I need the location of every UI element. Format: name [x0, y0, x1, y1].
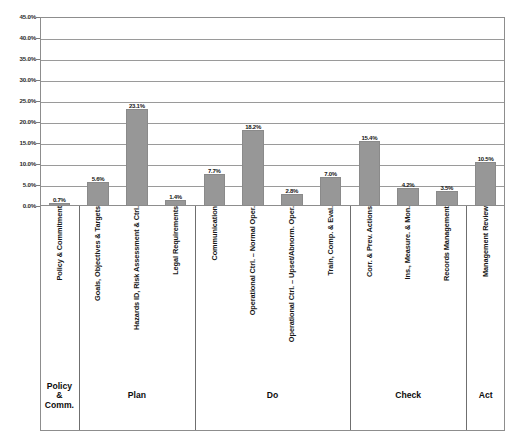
bar: 7.0%: [320, 177, 342, 206]
y-axis-tick-label: 0.0%: [2, 202, 36, 209]
category-label-slot: Ins., Measure. & Mon.: [389, 206, 428, 362]
bar-slot: 23.1%: [126, 17, 148, 206]
category-label-slot: Legal Requirements: [156, 206, 195, 362]
axis-rule-bottom: [40, 430, 505, 431]
category-label: Communication: [211, 206, 218, 264]
y-axis-tick-label: 45.0%: [2, 13, 36, 20]
y-axis-tick-label: 25.0%: [2, 97, 36, 104]
category-axis: Policy & CommitmentGoals, Objectives & T…: [40, 206, 505, 362]
bar-chart: 45.0%40.0%35.0%30.0%25.0%20.0%15.0%10.0%…: [0, 0, 517, 440]
bar-slot: 10.5%: [475, 17, 497, 206]
bar-slot: 7.7%: [204, 17, 226, 206]
y-axis-tick-label: 15.0%: [2, 139, 36, 146]
axis-rule-left: [40, 206, 41, 430]
category-label: Goals, Objectives & Targets: [94, 206, 101, 304]
bar-slot: 0.7%: [49, 17, 71, 206]
bar: 10.5%: [475, 162, 497, 206]
y-axis-tick-label: 5.0%: [2, 181, 36, 188]
bar-slot: 5.6%: [87, 17, 109, 206]
group-separator: [79, 206, 80, 430]
group-label-slot: Policy & Comm.: [40, 362, 79, 430]
bar-value-label: 4.2%: [402, 182, 415, 188]
bar-slot: 15.4%: [359, 17, 381, 206]
bar-value-label: 3.5%: [441, 185, 454, 191]
category-label: Train, Comp. & Eval.: [327, 206, 334, 278]
axis-rule-right: [504, 206, 505, 430]
group-label-slot: Do: [195, 362, 350, 430]
bar-value-label: 15.4%: [361, 135, 377, 141]
category-label-slot: Operational Ctrl. – Upset/Abnorm. Oper.: [273, 206, 312, 362]
bar-value-label: 1.4%: [169, 194, 182, 200]
category-label: Management Review: [482, 206, 489, 280]
bar: 23.1%: [126, 109, 148, 206]
group-label: Do: [267, 391, 278, 401]
bar-slot: 1.4%: [165, 17, 187, 206]
bar-value-label: 18.2%: [245, 124, 261, 130]
y-axis-tick-label: 20.0%: [2, 118, 36, 125]
group-label: Act: [479, 391, 493, 401]
bar-value-label: 7.7%: [208, 168, 221, 174]
bar: 3.5%: [436, 191, 458, 206]
y-axis-tick-label: 35.0%: [2, 55, 36, 62]
category-label-slot: Train, Comp. & Eval.: [311, 206, 350, 362]
group-separator: [466, 206, 467, 430]
group-separator: [195, 206, 196, 430]
category-label: Operational Ctrl. – Normal Oper.: [249, 206, 256, 318]
category-label-slot: Management Review: [466, 206, 505, 362]
bar: 15.4%: [359, 141, 381, 206]
category-label: Operational Ctrl. – Upset/Abnorm. Oper.: [288, 206, 295, 345]
group-label-slot: Act: [466, 362, 505, 430]
category-label: Records Management: [443, 206, 450, 284]
y-axis-tick-label: 10.0%: [2, 160, 36, 167]
category-label: Legal Requirements: [172, 206, 179, 278]
category-label-slot: Communication: [195, 206, 234, 362]
y-axis-tick-label: 40.0%: [2, 34, 36, 41]
bar-value-label: 0.7%: [53, 197, 66, 203]
bar-value-label: 23.1%: [129, 103, 145, 109]
bar-slot: 2.8%: [281, 17, 303, 206]
category-label: Hazards ID, Risk Assessment & Ctrl.: [133, 206, 140, 333]
category-label-slot: Corr. & Prev. Actions: [350, 206, 389, 362]
bar: 18.2%: [242, 130, 264, 206]
bar: 2.8%: [281, 194, 303, 206]
group-label-slot: Plan: [79, 362, 195, 430]
bar-slot: 7.0%: [320, 17, 342, 206]
bar: 4.2%: [397, 188, 419, 206]
bar-value-label: 2.8%: [286, 188, 299, 194]
group-label: Plan: [128, 391, 146, 401]
category-label-slot: Operational Ctrl. – Normal Oper.: [234, 206, 273, 362]
group-separator: [350, 206, 351, 430]
bar-slot: 18.2%: [242, 17, 264, 206]
bar-slot: 4.2%: [397, 17, 419, 206]
category-label-slot: Records Management: [428, 206, 467, 362]
bar-value-label: 7.0%: [324, 171, 337, 177]
category-label: Policy & Commitment: [56, 206, 63, 283]
group-axis: Policy & Comm.PlanDoCheckAct: [40, 362, 505, 430]
category-label-slot: Hazards ID, Risk Assessment & Ctrl.: [118, 206, 157, 362]
category-label-slot: Goals, Objectives & Targets: [79, 206, 118, 362]
bar: 5.6%: [87, 182, 109, 206]
category-label: Corr. & Prev. Actions: [366, 206, 373, 280]
category-label: Ins., Measure. & Mon.: [404, 206, 411, 282]
bars-layer: 0.7%5.6%23.1%1.4%7.7%18.2%2.8%7.0%15.4%4…: [40, 17, 505, 206]
bar-value-label: 10.5%: [478, 156, 494, 162]
group-label: Check: [395, 391, 421, 401]
group-label-slot: Check: [350, 362, 466, 430]
category-label-slot: Policy & Commitment: [40, 206, 79, 362]
group-label: Policy & Comm.: [45, 382, 74, 411]
bar-value-label: 5.6%: [92, 176, 105, 182]
y-axis-tick-label: 30.0%: [2, 76, 36, 83]
bar: 7.7%: [204, 174, 226, 206]
bar-slot: 3.5%: [436, 17, 458, 206]
